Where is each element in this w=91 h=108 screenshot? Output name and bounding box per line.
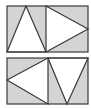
bottom-panel (7, 58, 88, 104)
triangle-diagram (0, 0, 91, 108)
top-panel (7, 6, 88, 52)
